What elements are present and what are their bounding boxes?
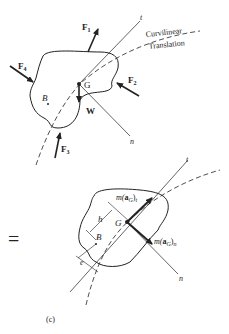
curvilinear-label: Curvilinear [145,26,183,39]
top-free-body: t n G B W F1 F2 F3 F4 Curvilinear Transl… [10,13,200,165]
normal-inertia-label: m(aG)n [154,237,176,247]
tangential-inertia-label: m(aG)t [116,193,137,203]
force-f2-label: F2 [128,75,137,86]
n-axis-label: n [130,137,134,146]
t-axis-kinetic [70,160,188,292]
free-body-diagram: t n G B W F1 F2 F3 F4 Curvilinear Transl… [0,0,229,334]
kinetic-diagram: t n G m(aG)t m(aG)n B h e [70,155,220,305]
figure-caption: (c) [46,315,55,324]
t-axis-label-kinetic: t [186,155,189,164]
curvilinear-path-kinetic [86,170,220,305]
equals-sign: = [8,228,19,250]
force-f3-arrow [55,133,60,158]
force-f4-label: F4 [18,61,27,72]
point-b-label: B [42,93,48,103]
translation-label: Translation [148,38,185,51]
t-axis-label: t [140,13,143,22]
normal-inertia-arrow [127,222,152,244]
weight-label: W [86,106,95,116]
point-b-label-kinetic: B [96,232,102,242]
center-of-mass-label: G [84,80,91,90]
point-b [47,103,49,105]
n-axis-label-kinetic: n [179,274,183,283]
force-f1-label: F1 [82,22,91,33]
e-dimension-label: e [80,258,84,267]
h-dimension-extension-2 [86,230,96,240]
rigid-body-outline [30,51,118,128]
e-dimension-extension-1 [78,244,96,258]
h-dimension-label: h [98,214,103,224]
force-f3-label: F3 [61,144,70,155]
center-of-mass-label-kinetic: G [115,218,122,228]
